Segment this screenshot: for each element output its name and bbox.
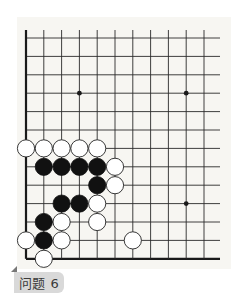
white-stone: [124, 232, 141, 249]
white-stone: [71, 140, 88, 157]
star-point: [77, 91, 82, 96]
white-stone: [89, 195, 106, 212]
problem-label: 问题 6: [14, 272, 64, 293]
problem-label-text: 问题 6: [19, 273, 59, 292]
black-stone: [53, 195, 70, 212]
white-stone: [53, 232, 70, 249]
white-stone: [17, 140, 34, 157]
go-problem-diagram: 问题 6: [0, 0, 243, 301]
black-stone: [35, 232, 52, 249]
black-stone: [71, 158, 88, 175]
white-stone: [35, 140, 52, 157]
white-stone: [53, 213, 70, 230]
white-stone: [35, 250, 52, 267]
black-stone: [35, 213, 52, 230]
white-stone: [53, 140, 70, 157]
go-board: [0, 0, 243, 301]
black-stone: [89, 158, 106, 175]
white-stone: [89, 140, 106, 157]
black-stone: [89, 177, 106, 194]
black-stone: [35, 158, 52, 175]
black-stone: [71, 195, 88, 212]
star-point: [184, 201, 189, 206]
white-stone: [106, 177, 123, 194]
white-stone: [89, 213, 106, 230]
black-stone: [53, 158, 70, 175]
white-stone: [106, 158, 123, 175]
star-point: [184, 91, 189, 96]
white-stone: [17, 232, 34, 249]
